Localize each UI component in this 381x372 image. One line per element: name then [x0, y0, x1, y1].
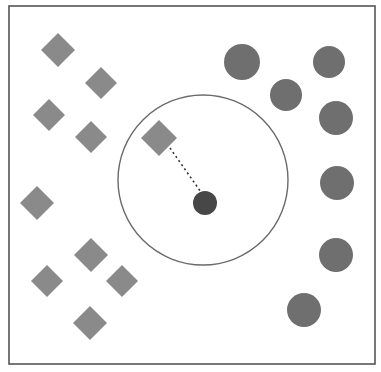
data-point-diamond	[85, 67, 117, 99]
series-class-b	[224, 44, 354, 327]
series-class-a	[20, 33, 177, 340]
data-point-circle	[319, 101, 353, 135]
data-point-diamond	[74, 238, 108, 272]
data-point-diamond	[33, 99, 65, 131]
data-point-circle	[313, 46, 345, 78]
data-point-diamond	[41, 33, 75, 67]
data-point-circle	[287, 293, 321, 327]
data-point-diamond	[141, 120, 177, 156]
nearest-neighbour-connector	[170, 148, 203, 195]
data-point-diamond	[75, 121, 107, 153]
data-point-diamond	[31, 265, 63, 297]
data-point-circle	[320, 166, 354, 200]
figure-root	[0, 0, 381, 372]
data-point-diamond	[20, 186, 54, 220]
neighborhood-boundary-circle	[118, 95, 288, 265]
data-point-circle	[224, 44, 260, 80]
data-point-diamond	[106, 265, 138, 297]
data-point-diamond	[73, 306, 107, 340]
data-point-circle	[319, 238, 353, 272]
scatter-plot-canvas	[0, 0, 381, 372]
query-point	[193, 191, 217, 215]
data-point-circle	[270, 79, 302, 111]
